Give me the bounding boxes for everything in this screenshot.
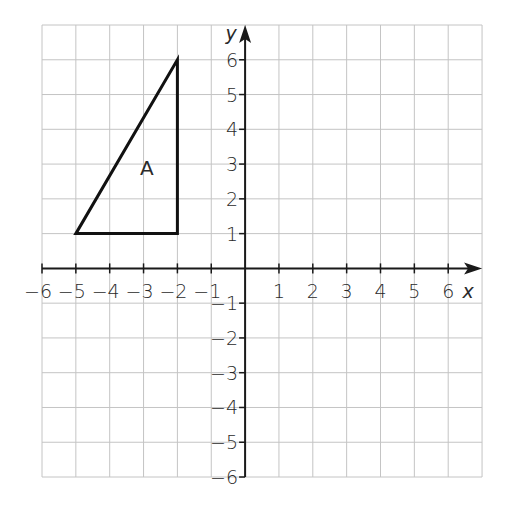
y-tick-label: −1 xyxy=(210,292,238,314)
x-tick-label: −2 xyxy=(159,280,187,302)
x-tick-label: 1 xyxy=(273,280,285,302)
y-tick-label: −5 xyxy=(210,431,238,453)
x-tick-label: −5 xyxy=(58,280,86,302)
tick-labels: −6−5−4−3−2−1123456x654321−1−2−3−4−5−6y xyxy=(24,22,474,488)
grid-lines xyxy=(42,25,482,477)
x-tick-label: −3 xyxy=(126,280,154,302)
y-tick-label: 3 xyxy=(226,153,238,175)
x-tick-label: −6 xyxy=(24,280,52,302)
x-tick-label: 5 xyxy=(408,280,420,302)
y-tick-label: 5 xyxy=(226,84,238,106)
shape-label: A xyxy=(140,156,154,180)
shapes: A xyxy=(76,60,178,234)
y-tick-label: 6 xyxy=(226,49,238,71)
x-tick-label: 3 xyxy=(341,280,353,302)
y-tick-label: −3 xyxy=(210,362,238,384)
x-tick-label: −4 xyxy=(92,280,120,302)
coordinate-grid: −6−5−4−3−2−1123456x654321−1−2−3−4−5−6y A xyxy=(0,0,507,505)
triangle-a xyxy=(76,60,178,234)
y-tick-label: 1 xyxy=(226,223,238,245)
y-tick-label: −4 xyxy=(210,396,238,418)
y-axis-label: y xyxy=(224,22,237,44)
x-tick-label: 6 xyxy=(442,280,454,302)
x-axis-label: x xyxy=(461,280,474,302)
x-tick-label: 4 xyxy=(374,280,386,302)
y-tick-label: −2 xyxy=(210,327,238,349)
axes xyxy=(42,25,482,477)
y-tick-label: 2 xyxy=(226,188,238,210)
x-tick-label: 2 xyxy=(307,280,319,302)
y-tick-label: −6 xyxy=(210,466,238,488)
y-tick-label: 4 xyxy=(226,118,238,140)
